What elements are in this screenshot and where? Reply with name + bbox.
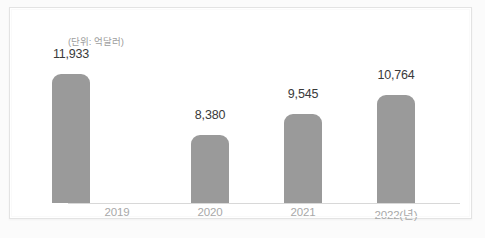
bar-value-label-2022: 11,933	[28, 47, 114, 61]
bar-2021[interactable]	[377, 95, 415, 203]
x-tick-label-2019: 2019	[74, 206, 160, 218]
chart-figure-frame: (단위: 억달러) 8,380 9,545 10,764 11,933 2019	[9, 7, 472, 219]
bar-value-label-2021: 10,764	[353, 68, 439, 82]
bar-value-label-2019: 8,380	[167, 108, 253, 122]
x-tick-label-2022: 2022(년)	[353, 206, 439, 222]
x-tick-label-2020: 2020	[167, 206, 253, 218]
bar-2019[interactable]	[191, 135, 229, 203]
page-background: (단위: 억달러) 8,380 9,545 10,764 11,933 2019	[0, 0, 485, 238]
x-axis-tick-labels: 2019 2020 2021 2022(년)	[28, 206, 473, 226]
bar-column-2020: 9,545	[260, 22, 346, 204]
bar-column-2019: 8,380	[167, 22, 253, 204]
bar-2020[interactable]	[284, 114, 322, 203]
bar-value-label-2020: 9,545	[260, 87, 346, 101]
chart-plot-area: 8,380 9,545 10,764 11,933	[28, 22, 473, 204]
bar-column-2021: 10,764	[353, 22, 439, 204]
bar-column-2022: 11,933	[28, 22, 114, 204]
bar-2022[interactable]	[52, 74, 90, 203]
x-tick-label-2021: 2021	[260, 206, 346, 218]
